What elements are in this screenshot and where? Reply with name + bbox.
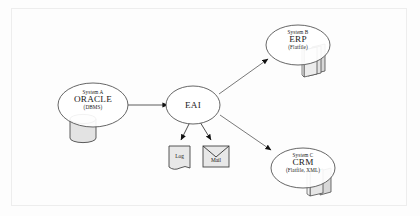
node-system-b[interactable] bbox=[266, 25, 330, 65]
diagram-graphics bbox=[0, 0, 420, 216]
node-eai[interactable] bbox=[166, 86, 220, 124]
edge-eai-to-log bbox=[181, 122, 190, 140]
diagram-canvas: System A ORACLE (DBMS) EAI System B ERP … bbox=[0, 0, 420, 216]
edge-eai-to-mail bbox=[200, 122, 211, 140]
log-note-icon[interactable] bbox=[169, 146, 190, 169]
node-system-c[interactable] bbox=[271, 148, 335, 188]
edge-eai-to-system-b bbox=[219, 59, 268, 94]
mail-envelope-icon[interactable] bbox=[203, 146, 229, 167]
edge-eai-to-system-c bbox=[220, 115, 271, 150]
node-system-a[interactable] bbox=[58, 83, 128, 127]
